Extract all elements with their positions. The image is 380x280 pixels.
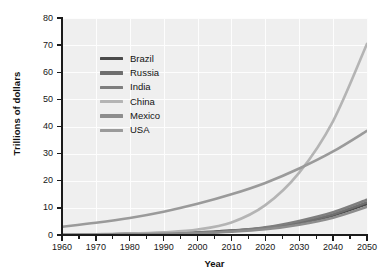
x-axis-minor-tick <box>146 236 147 239</box>
x-axis-minor-tick <box>180 236 181 239</box>
legend-swatch-icon <box>100 86 123 89</box>
x-axis-tick-label: 2000 <box>181 243 215 252</box>
series-line-usa <box>62 131 367 227</box>
line-chart: 01020304050607080 1960197019801990200020… <box>0 0 380 280</box>
legend-item-india: India <box>100 82 160 93</box>
y-axis-tick-label: 0 <box>27 231 53 240</box>
legend-item-label: China <box>130 97 155 107</box>
legend-item-label: India <box>130 82 151 92</box>
x-axis-tick <box>129 236 130 241</box>
x-axis-tick <box>366 236 367 241</box>
y-axis-tick <box>57 153 61 154</box>
x-axis-title: Year <box>62 258 367 269</box>
legend-item-china: China <box>100 96 160 107</box>
y-axis-tick <box>57 72 61 73</box>
y-axis-tick-label: 80 <box>27 14 53 23</box>
x-axis-minor-tick <box>78 236 79 239</box>
x-axis-tick-label: 1970 <box>79 243 113 252</box>
x-axis-minor-tick <box>316 236 317 239</box>
y-axis-line <box>61 17 63 236</box>
legend-item-brazil: Brazil <box>100 53 160 64</box>
x-axis-minor-tick <box>214 236 215 239</box>
y-axis-tick-label: 10 <box>27 203 53 212</box>
y-axis-tick-label: 70 <box>27 41 53 50</box>
x-axis-tick <box>299 236 300 241</box>
legend-swatch-icon <box>100 114 123 117</box>
y-axis-tick-label: 60 <box>27 68 53 77</box>
x-axis-tick-label: 2030 <box>282 243 316 252</box>
y-axis-tick <box>57 99 61 100</box>
x-axis-minor-tick <box>248 236 249 239</box>
x-axis-tick <box>265 236 266 241</box>
legend-item-mexico: Mexico <box>100 111 160 122</box>
x-axis-tick-label: 2020 <box>248 243 282 252</box>
y-axis-tick <box>57 126 61 127</box>
series-line-russia <box>62 202 367 234</box>
legend-item-label: Brazil <box>130 54 154 64</box>
x-axis-tick-label: 1980 <box>113 243 147 252</box>
legend-item-russia: Russia <box>100 67 160 78</box>
legend-item-usa: USA <box>100 125 160 136</box>
y-axis-tick-label: 20 <box>27 176 53 185</box>
legend-swatch-icon <box>100 57 123 60</box>
x-axis-minor-tick <box>349 236 350 239</box>
y-axis-tick-label: 30 <box>27 149 53 158</box>
x-axis-minor-tick <box>112 236 113 239</box>
x-axis-tick-label: 2040 <box>316 243 350 252</box>
chart-legend: BrazilRussiaIndiaChinaMexicoUSA <box>100 53 160 136</box>
y-axis-title: Trillions of dollars <box>11 49 22 179</box>
legend-item-label: Mexico <box>130 111 160 121</box>
legend-swatch-icon <box>100 129 123 132</box>
x-axis-minor-tick <box>282 236 283 239</box>
legend-item-label: Russia <box>130 68 159 78</box>
x-axis-tick <box>163 236 164 241</box>
legend-item-label: USA <box>130 125 150 135</box>
x-axis-tick-label: 2010 <box>214 243 248 252</box>
x-axis-tick <box>95 236 96 241</box>
y-axis-tick-label: 50 <box>27 95 53 104</box>
x-axis-tick-label: 2050 <box>350 243 380 252</box>
x-axis-tick <box>231 236 232 241</box>
y-axis-tick <box>57 207 61 208</box>
x-axis-tick <box>61 236 62 241</box>
x-axis-tick <box>197 236 198 241</box>
x-axis-tick-label: 1960 <box>45 243 79 252</box>
y-axis-tick <box>57 44 61 45</box>
y-axis-tick <box>57 180 61 181</box>
legend-swatch-icon <box>100 100 123 103</box>
y-axis-tick <box>57 17 61 18</box>
legend-swatch-icon <box>100 71 123 74</box>
gridline-vertical <box>367 18 368 235</box>
x-axis-tick-label: 1990 <box>147 243 181 252</box>
x-axis-tick <box>332 236 333 241</box>
y-axis-tick-label: 40 <box>27 122 53 131</box>
